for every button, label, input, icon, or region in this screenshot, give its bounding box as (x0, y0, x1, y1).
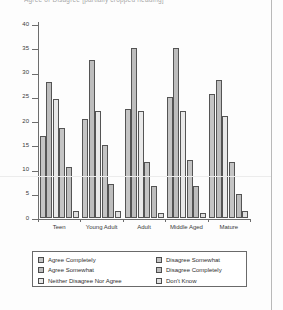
bar (209, 94, 215, 218)
legend-swatch-icon (38, 257, 44, 263)
bar (229, 162, 235, 218)
legend-item[interactable]: Agree Somewhat (38, 266, 146, 275)
bar (131, 48, 137, 218)
y-tick-label: 15 (22, 142, 29, 148)
page-edge-line (271, 0, 272, 310)
x-category-label: Adult (121, 224, 167, 232)
bar (53, 99, 59, 218)
bar (66, 167, 72, 218)
bar-group (167, 24, 206, 218)
bar-group (209, 24, 248, 218)
bar (82, 119, 88, 218)
bar (236, 194, 242, 218)
bar (102, 145, 108, 218)
legend-swatch-icon (156, 257, 162, 263)
legend-label: Don't Know (166, 278, 197, 284)
bar (46, 82, 52, 218)
legend-item[interactable]: Disagree Completely (156, 266, 222, 275)
legend-item[interactable]: Disagree Somewhat (156, 255, 222, 264)
x-tick (80, 219, 81, 222)
y-tick-label: 5 (26, 190, 29, 196)
bar (158, 213, 164, 218)
legend-label: Disagree Completely (166, 267, 222, 273)
y-tick-label: 0 (26, 215, 29, 221)
bar-group (82, 24, 121, 218)
legend: Agree CompletelyAgree SomewhatNeither Di… (32, 251, 247, 287)
x-tick (250, 219, 251, 222)
legend-label: Agree Completely (48, 257, 96, 263)
y-tick-label: 25 (22, 93, 29, 99)
y-tick-label: 30 (22, 69, 29, 75)
bar (216, 80, 222, 218)
bar (242, 211, 248, 218)
x-tick (165, 219, 166, 222)
legend-item[interactable]: Neither Disagree Nor Agree (38, 276, 146, 285)
legend-column-left: Agree CompletelyAgree SomewhatNeither Di… (38, 255, 146, 285)
bar-group (40, 24, 79, 218)
bar (222, 116, 228, 218)
bar-chart: 0510152025303540 TeenYoung AdultAdultMid… (0, 0, 271, 248)
bar (187, 160, 193, 218)
y-tick-label: 40 (22, 21, 29, 27)
bar (138, 111, 144, 218)
legend-label: Agree Somewhat (48, 267, 94, 273)
bar (59, 128, 65, 218)
legend-item[interactable]: Agree Completely (38, 255, 146, 264)
legend-label: Neither Disagree Nor Agree (48, 278, 122, 284)
legend-swatch-icon (156, 278, 162, 284)
y-tick-label: 20 (22, 118, 29, 124)
y-tick-label: 35 (22, 45, 29, 51)
bar (108, 184, 114, 218)
x-category-label: Teen (36, 224, 82, 232)
bar-group (125, 24, 164, 218)
bar (173, 48, 179, 218)
scan-artifact-line (0, 176, 271, 177)
bar (151, 186, 157, 218)
y-tick-label: 10 (22, 166, 29, 172)
legend-label: Disagree Somewhat (166, 257, 220, 263)
x-tick (38, 219, 39, 222)
bar (73, 211, 79, 218)
legend-column-right: Disagree SomewhatDisagree CompletelyDon'… (156, 255, 222, 285)
bar (95, 111, 101, 218)
x-tick (123, 219, 124, 222)
legend-item[interactable]: Don't Know (156, 276, 222, 285)
bar (167, 97, 173, 218)
bar (200, 213, 206, 218)
bar (115, 211, 121, 218)
bar (180, 111, 186, 218)
x-category-label: Middle Aged (163, 224, 209, 232)
bar (89, 60, 95, 218)
x-category-label: Young Adult (79, 224, 125, 232)
legend-swatch-icon (38, 278, 44, 284)
legend-swatch-icon (38, 267, 44, 273)
bar (193, 186, 199, 218)
bar (144, 162, 150, 218)
x-category-label: Mature (206, 224, 252, 232)
legend-swatch-icon (156, 267, 162, 273)
plot-area (38, 24, 250, 218)
x-tick (208, 219, 209, 222)
bar (125, 109, 131, 218)
x-axis-line (38, 219, 250, 220)
